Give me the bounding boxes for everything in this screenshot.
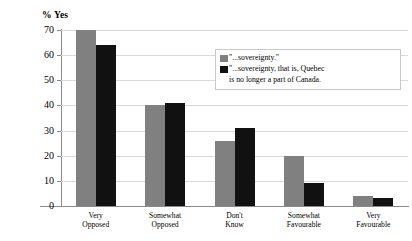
bar [145,105,165,206]
bar [373,198,393,206]
y-tick-mark [57,105,61,106]
bar [215,141,235,206]
y-tick-label: 0 [49,201,54,211]
y-axis-title: % Yes [42,10,68,20]
y-tick-mark [57,156,61,157]
x-tick-label-line: Favourable [323,220,412,229]
y-tick-mark [57,55,61,56]
y-tick-mark [57,80,61,81]
gray-swatch-icon [220,55,228,62]
bar-group [76,30,116,206]
bar [353,196,373,206]
y-tick-label: 20 [44,151,54,161]
y-tick-mark [57,181,61,182]
legend-label: "...sovereignty, that is, Quebec is no l… [229,64,324,85]
legend-label: "...sovereignty." [229,53,279,63]
bar [96,45,116,206]
y-tick-label: 70 [44,25,54,35]
y-tick-label: 60 [44,50,54,60]
legend-item: "...sovereignty." [220,53,396,63]
bar-group [145,30,185,206]
bar [76,30,96,206]
y-tick-label: 40 [44,100,54,110]
legend-item: "...sovereignty, that is, Quebec is no l… [220,64,396,85]
y-tick-label: 10 [44,176,54,186]
x-tick-label: VeryFavourable [323,211,412,230]
x-axis-line [40,206,409,207]
y-tick-label: 50 [44,75,54,85]
black-swatch-icon [220,66,228,73]
bar [235,128,255,206]
y-tick-mark [57,30,61,31]
bar [165,103,185,206]
bar [284,156,304,206]
y-tick-mark [57,206,61,207]
y-tick-label: 30 [44,126,54,136]
x-tick-label-line: Very [323,211,412,220]
y-tick-mark [57,131,61,132]
bar [304,183,324,206]
bar-chart: % Yes 010203040506070 VeryOpposedSomewha… [0,0,412,241]
legend: "...sovereignty." "...sovereignty, that … [215,49,401,90]
